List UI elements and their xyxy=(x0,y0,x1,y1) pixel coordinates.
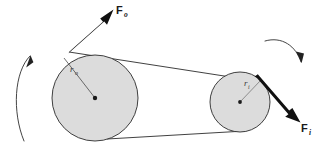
force-output-label: F xyxy=(116,4,123,16)
force-input-subscript: i xyxy=(309,128,312,137)
force-input-label: F xyxy=(301,122,308,134)
force-output-subscript: o xyxy=(124,10,128,19)
input-pulley-center-dot xyxy=(238,100,242,104)
rotation-arc-input-arrowhead xyxy=(296,51,304,63)
rotation-arc-output xyxy=(16,56,30,141)
output-pulley-center-dot xyxy=(93,96,97,100)
belt-drive-diagram: F o F i r o r i xyxy=(0,0,325,149)
rotation-arc-input xyxy=(265,40,301,62)
output-radius-subscript: o xyxy=(75,70,78,76)
force-output-arrow xyxy=(68,10,113,54)
belt-drive-figure: F o F i r o r i xyxy=(0,0,325,149)
belt-lower-line xyxy=(107,131,245,139)
output-radius-label: r xyxy=(70,64,74,74)
rotation-arc-output-arrowhead xyxy=(26,55,33,67)
